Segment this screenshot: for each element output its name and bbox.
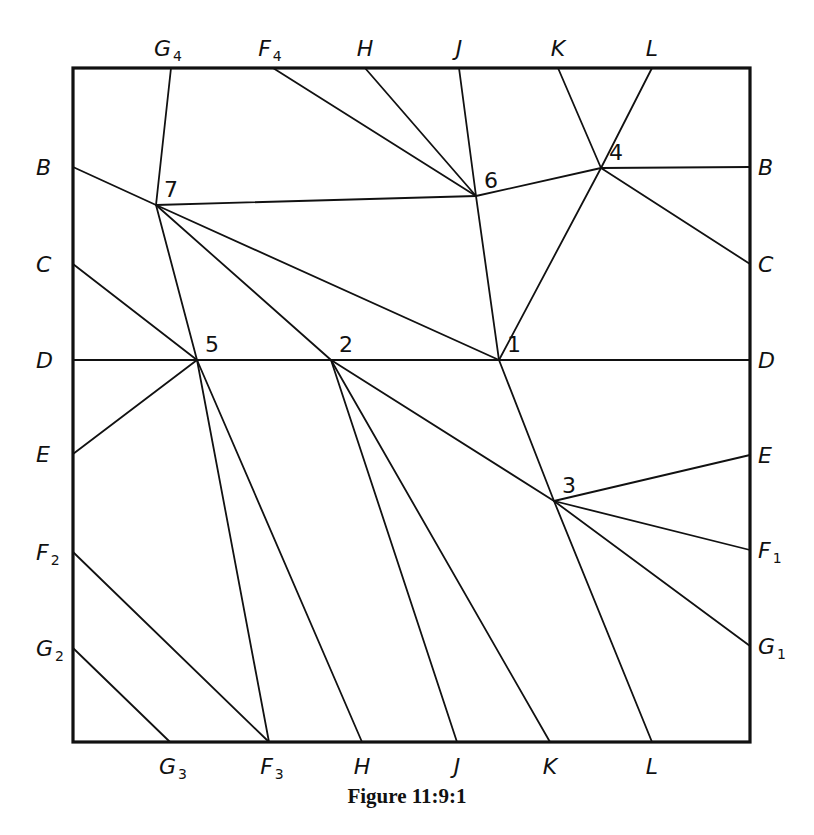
edge-3-R-F1 xyxy=(554,501,750,550)
diagram-edges xyxy=(73,68,750,742)
edge-T-K-4 xyxy=(558,68,601,168)
border-label-bottom-L: L xyxy=(646,754,658,779)
border-label-right-C: C xyxy=(758,252,774,277)
border-label-left-G2: G2 xyxy=(36,636,64,664)
vertex-label-5: 5 xyxy=(205,332,219,357)
edge-T-J-6 xyxy=(459,68,476,196)
edge-1-3 xyxy=(499,360,554,501)
edge-L-F2-B-F3 xyxy=(73,552,269,742)
figure-caption: Figure 11:9:1 xyxy=(0,784,814,809)
border-label-right-F1: F1 xyxy=(758,538,782,566)
square-frame xyxy=(73,68,750,742)
border-label-right-G1: G1 xyxy=(758,634,786,662)
border-label-top-J: J xyxy=(452,36,463,61)
edge-L-C-5 xyxy=(73,264,197,360)
edge-L-E-5 xyxy=(73,360,197,454)
border-label-top-H: H xyxy=(357,36,374,61)
edge-T-H-6 xyxy=(365,68,476,196)
edge-7-6 xyxy=(156,196,476,205)
edge-3-R-E xyxy=(554,455,750,501)
vertex-label-7: 7 xyxy=(164,177,178,202)
edge-2-B-K xyxy=(331,360,550,742)
vertex-label-6: 6 xyxy=(484,168,498,193)
border-label-right-E: E xyxy=(758,443,772,468)
edge-6-1 xyxy=(476,196,499,360)
edge-T-F4-6 xyxy=(273,68,476,196)
border-label-bottom-G3: G3 xyxy=(159,754,187,782)
edge-7-2 xyxy=(156,205,331,360)
edge-5-B-F3 xyxy=(197,360,269,742)
border-label-bottom-K: K xyxy=(543,754,559,779)
border-label-top-L: L xyxy=(646,36,658,61)
border-label-left-D: D xyxy=(36,348,53,373)
vertex-label-4: 4 xyxy=(609,140,623,165)
edge-7-5 xyxy=(156,205,197,360)
border-label-top-G4: G4 xyxy=(154,36,182,64)
border-label-bottom-H: H xyxy=(354,754,371,779)
vertex-label-2: 2 xyxy=(339,332,353,357)
edge-4-R-C xyxy=(601,168,750,264)
border-label-top-K: K xyxy=(551,36,567,61)
border-label-left-B: B xyxy=(36,155,51,180)
edge-2-B-J xyxy=(331,360,457,742)
edge-5-B-H xyxy=(197,360,362,742)
border-label-bottom-F3: F3 xyxy=(260,754,284,782)
border-label-left-F2: F2 xyxy=(36,540,60,568)
vertex-label-1: 1 xyxy=(507,332,521,357)
edge-4-R-B xyxy=(601,167,750,168)
border-label-bottom-J: J xyxy=(450,754,461,779)
border-label-right-B: B xyxy=(758,155,773,180)
border-label-left-E: E xyxy=(36,442,50,467)
tiling-diagram: 1234567 G4F4HJKLG3F3HJKLBCDEF2G2BCDEF1G1 xyxy=(0,0,814,835)
border-label-left-C: C xyxy=(36,252,52,277)
edge-2-3 xyxy=(331,360,554,501)
edge-L-G2-B-G3 xyxy=(73,648,170,742)
border-label-right-D: D xyxy=(758,348,775,373)
border-label-top-F4: F4 xyxy=(258,36,282,64)
edge-L-B-7 xyxy=(73,167,156,205)
border-labels: G4F4HJKLG3F3HJKLBCDEF2G2BCDEF1G1 xyxy=(36,36,786,782)
vertex-label-3: 3 xyxy=(562,473,576,498)
